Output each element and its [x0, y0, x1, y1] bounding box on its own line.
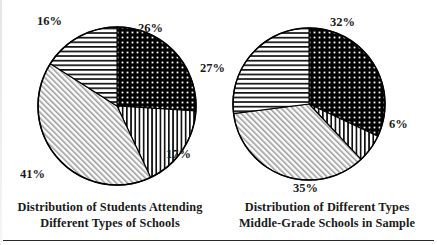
pie-label-students-41: 41%	[20, 168, 45, 181]
pie-label-middle-27: 27%	[200, 62, 225, 75]
pie-slices-group	[38, 27, 196, 185]
caption-line-1: Distribution of Different Types	[217, 200, 437, 216]
caption-line-2: Different Types of Schools	[0, 216, 220, 232]
chart-panel-students-attending: 26% 17% 41% 16% Distribution of Students…	[0, 0, 220, 245]
pie-label-middle-6: 6%	[389, 118, 408, 131]
caption-line-1: Distribution of Students Attending	[0, 200, 220, 216]
chart-caption-middle-grade: Distribution of Different Types Middle-G…	[217, 200, 437, 231]
caption-line-2: Middle-Grade Schools in Sample	[217, 216, 437, 232]
pie-label-students-17: 17%	[166, 148, 191, 161]
pie-slices-group	[233, 28, 385, 180]
chart-caption-students: Distribution of Students Attending Diffe…	[0, 200, 220, 231]
pie-label-students-16: 16%	[37, 15, 62, 28]
figure-two-pie-charts: 26% 17% 41% 16% Distribution of Students…	[0, 0, 437, 245]
chart-panel-middle-grade-schools: 32% 6% 35% 27% Distribution of Different…	[217, 0, 437, 245]
pie-slice-students-26	[117, 27, 196, 111]
pie-label-students-26: 26%	[138, 22, 163, 35]
pie-slice-middle-27	[233, 28, 309, 114]
pie-label-middle-32: 32%	[330, 16, 355, 29]
pie-label-middle-35: 35%	[293, 182, 318, 195]
bottom-divider-rule	[3, 240, 434, 241]
